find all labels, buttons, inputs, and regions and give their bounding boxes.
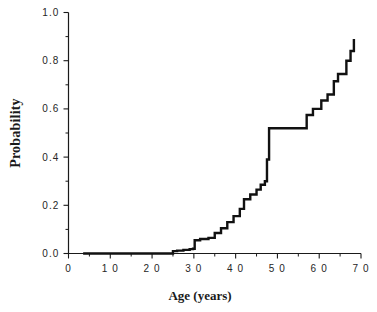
x-tick-label: 2 0: [143, 263, 160, 274]
x-tick-label: 1 0: [102, 263, 119, 274]
x-tick-group: 01 02 03 04 05 06 07 0: [65, 254, 369, 274]
y-tick-group: 0.00.20.40.60.81.0: [42, 7, 68, 259]
y-tick-label: 0.0: [42, 248, 59, 259]
step-curve-line: [83, 39, 354, 253]
x-tick-label: 0: [65, 263, 72, 274]
axis-spines: [69, 13, 362, 254]
y-tick-label: 0.2: [42, 200, 59, 211]
x-tick-label: 3 0: [185, 263, 202, 274]
x-axis-title: Age (years): [168, 288, 231, 303]
y-tick-label: 0.4: [42, 152, 59, 163]
x-tick-label: 5 0: [269, 263, 286, 274]
cumulative-probability-step-chart: Probability Age (years) 0.00.20.40.60.81…: [0, 0, 377, 312]
y-tick-label: 0.6: [42, 103, 59, 114]
x-tick-label: 7 0: [352, 263, 369, 274]
chart-figure: Probability Age (years) 0.00.20.40.60.81…: [0, 0, 377, 312]
y-axis-title: Probability: [8, 98, 23, 168]
x-tick-label: 6 0: [311, 263, 328, 274]
x-tick-label: 4 0: [227, 263, 244, 274]
y-tick-label: 1.0: [42, 7, 59, 18]
y-tick-label: 0.8: [42, 55, 59, 66]
